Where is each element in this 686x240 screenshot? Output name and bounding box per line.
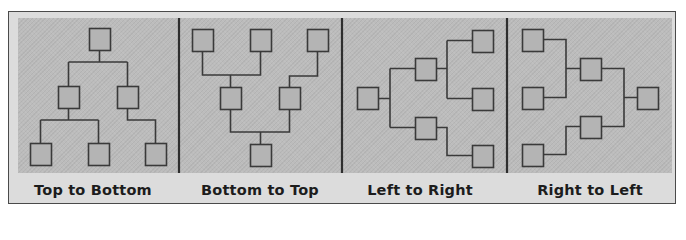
tree-node-bottom-to-top [251,30,272,52]
tree-node-left-to-right [416,118,437,140]
label-left-to-right: Left to Right [345,179,495,201]
tree-connector [290,50,318,87]
tree-connector [41,107,99,143]
tree-node-left-to-right [358,88,379,110]
tree-node-bottom-to-top [251,145,272,167]
tree-node-left-to-right [473,89,494,111]
tree-node-right-to-left [581,117,602,139]
tree-node-left-to-right [416,59,437,81]
label-top-to-bottom: Top to Bottom [18,179,168,201]
tree-connector [231,108,290,144]
tree-node-left-to-right [473,31,494,53]
tree-connector [128,107,156,143]
tree-node-right-to-left [523,88,544,110]
tree-connector [436,41,472,99]
tree-connector [543,127,580,155]
tree-connector [203,50,261,87]
tree-node-bottom-to-top [280,88,301,110]
tree-connector [543,40,580,98]
tree-connector [69,49,128,86]
label-right-to-left: Right to Left [515,179,665,201]
tree-node-top-to-bottom [31,144,52,166]
tree-node-right-to-left [523,145,544,167]
tree-node-right-to-left [523,30,544,52]
tree-node-top-to-bottom [89,144,110,166]
tree-node-right-to-left [638,88,659,110]
tree-node-bottom-to-top [193,30,214,52]
label-bottom-to-top: Bottom to Top [185,179,335,201]
tree-node-top-to-bottom [146,144,167,166]
tree-node-top-to-bottom [118,87,139,109]
tree-connector [378,69,415,128]
tree-connector [436,128,472,156]
tree-connector [601,69,637,127]
tree-node-top-to-bottom [59,87,80,109]
tree-node-bottom-to-top [308,30,329,52]
tree-node-bottom-to-top [221,88,242,110]
tree-node-right-to-left [581,59,602,81]
tree-node-top-to-bottom [90,29,111,51]
tree-node-left-to-right [473,146,494,168]
